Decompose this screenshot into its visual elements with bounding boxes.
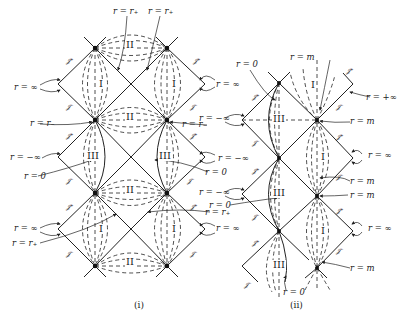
label-right-r-inf: r = ∞ <box>216 80 240 89</box>
scri-minus: 𝒥⁻ <box>336 174 343 181</box>
label-left-r-neg-inf: r = −∞ <box>10 153 41 162</box>
region-i-top: I <box>310 80 316 90</box>
region-iii-top: III <box>272 114 286 124</box>
region-i-left: I <box>98 79 104 89</box>
scri-plus: 𝒥⁺ <box>190 204 197 211</box>
region-i-left-lower: I <box>98 224 104 234</box>
region-ii-top: II <box>125 40 135 50</box>
region-i-mid: I <box>320 152 326 162</box>
scri-minus: 𝒥⁻ <box>252 214 259 221</box>
label-r-plus-inf: r = +∞ <box>366 93 397 102</box>
label-right-r-m-3: r = m <box>350 191 375 200</box>
label-top-r-m: r = m <box>290 53 315 62</box>
label-left-r-0: r = 0 <box>209 201 231 210</box>
label-left-r-neg-inf-2: r = −∞ <box>199 188 230 197</box>
label-left-r-inf-lower: r = ∞ <box>14 224 38 233</box>
region-ii-lower: II <box>125 185 135 195</box>
penrose-diagrams <box>0 0 407 323</box>
region-i-right-lower: I <box>171 224 177 234</box>
label-right-r-inf-1: r = ∞ <box>368 151 392 160</box>
region-i-low: I <box>320 226 326 236</box>
scri-plus: 𝒥⁺ <box>336 208 343 215</box>
caption-i: (i) <box>134 300 144 310</box>
region-ii-bottom: II <box>125 257 135 267</box>
region-iii-mid: III <box>272 188 286 198</box>
label-right-r-inf-2: r = ∞ <box>368 224 392 233</box>
scri-minus: 𝒥⁻ <box>66 251 73 258</box>
scri-minus: 𝒥⁻ <box>336 248 343 255</box>
label-left-r-minus: r = r₋ <box>30 119 55 128</box>
label-right-r-m-4: r = m <box>350 264 375 273</box>
label-right-r-m-1: r = m <box>350 117 375 126</box>
region-i-right: I <box>171 79 177 89</box>
label-left-r-0: r = 0 <box>24 172 46 181</box>
scri-plus: 𝒥⁺ <box>336 134 343 141</box>
scri-plus: 𝒥⁺ <box>190 133 197 140</box>
scri-minus: 𝒥⁻ <box>336 104 343 111</box>
scri-minus: 𝒥⁻ <box>190 251 197 258</box>
label-right-r-m-2: r = m <box>350 177 375 186</box>
scri-minus: 𝒥⁻ <box>187 178 194 185</box>
label-left-r-plus: r = r₊ <box>12 239 37 248</box>
scri-plus: 𝒥⁺ <box>346 68 353 75</box>
caption-ii: (ii) <box>290 300 303 310</box>
region-iii-left: III <box>86 151 100 161</box>
label-bottom-r-0: r = 0 <box>283 288 305 297</box>
region-iii-right: III <box>158 151 172 161</box>
label-top-r-0: r = 0 <box>236 60 258 69</box>
scri-minus: 𝒥⁻ <box>244 282 251 289</box>
label-top-r-plus-2: r = r₊ <box>148 7 173 16</box>
scri-plus: 𝒥⁺ <box>66 133 73 140</box>
scri-minus: 𝒥⁻ <box>66 104 73 111</box>
scri-plus: 𝒥⁺ <box>193 58 200 65</box>
scri-plus: 𝒥⁺ <box>252 240 259 247</box>
scri-minus: 𝒥⁻ <box>66 178 73 185</box>
scri-plus: 𝒥⁺ <box>66 58 73 65</box>
scri-minus: 𝒥⁻ <box>252 140 259 147</box>
label-left-r-neg-inf-1: r = −∞ <box>199 114 230 123</box>
label-right-r-0: r = 0 <box>205 168 227 177</box>
scri-plus: 𝒥⁺ <box>252 94 259 101</box>
label-right-r-inf-lower: r = ∞ <box>216 224 240 233</box>
label-right-r-neg-inf: r = −∞ <box>218 154 249 163</box>
label-top-r-plus-1: r = r₊ <box>113 7 138 16</box>
scri-plus: 𝒥⁺ <box>66 204 73 211</box>
scri-minus: 𝒥⁻ <box>190 104 197 111</box>
label-left-r-inf: r = ∞ <box>14 83 38 92</box>
region-ii-mid: II <box>125 112 135 122</box>
region-iii-low: III <box>272 260 286 270</box>
diagram-i-frame <box>58 37 205 277</box>
scri-plus: 𝒥⁺ <box>252 168 259 175</box>
